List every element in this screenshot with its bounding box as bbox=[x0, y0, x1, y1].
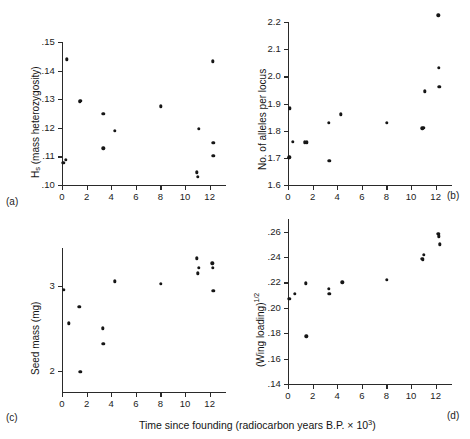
panel-b-x-tick bbox=[337, 186, 338, 190]
panel-d-x-tick bbox=[337, 385, 338, 389]
panel-a-y-tick bbox=[58, 128, 62, 129]
panel-a-y-tick-label: .10 bbox=[41, 180, 55, 190]
data-point bbox=[288, 107, 291, 110]
data-point bbox=[288, 297, 291, 300]
data-point bbox=[113, 129, 116, 132]
panel-d-y-tick bbox=[284, 257, 288, 258]
panel-c-y-axis bbox=[62, 248, 63, 392]
panel-b-x-tick-label: 8 bbox=[384, 192, 389, 202]
panel-a-y-tick-label: .15 bbox=[41, 37, 55, 47]
panel-a-y-tick bbox=[58, 156, 62, 157]
panel-b-x-tick-label: 0 bbox=[285, 192, 290, 202]
panel-b-y-tick-label: 1.6 bbox=[267, 180, 281, 190]
panel-d-x-tick bbox=[288, 385, 289, 389]
data-point bbox=[159, 105, 162, 108]
data-point bbox=[159, 282, 162, 285]
panel-b-y-tick bbox=[284, 104, 288, 105]
data-point bbox=[437, 66, 440, 69]
panel-d-y-tick bbox=[284, 333, 288, 334]
data-point bbox=[293, 292, 296, 295]
panel-a-y-axis-label: Hs (mass heterozygosity) bbox=[30, 66, 42, 178]
panel-a-x-tick-label: 2 bbox=[84, 192, 89, 202]
panel-b-y-tick bbox=[284, 22, 288, 23]
panel-b-x-tick bbox=[386, 186, 387, 190]
panel-a-tag: (a) bbox=[6, 196, 18, 207]
panel-b-tag: (b) bbox=[447, 190, 459, 201]
data-point bbox=[328, 292, 331, 295]
data-point bbox=[62, 288, 65, 291]
panel-a-x-tick-label: 6 bbox=[133, 192, 138, 202]
panel-b-y-axis bbox=[288, 22, 289, 185]
data-point bbox=[305, 141, 308, 144]
data-point bbox=[437, 234, 440, 237]
panel-d-y-tick-label: .14 bbox=[267, 379, 281, 389]
panel-a-x-tick-label: 12 bbox=[204, 192, 215, 202]
panel-b-y-tick-label: 1.9 bbox=[267, 99, 281, 109]
data-point bbox=[327, 121, 330, 124]
panel-a-y-tick bbox=[58, 42, 62, 43]
panel-a-x-tick-label: 4 bbox=[109, 192, 114, 202]
panel-d-x-tick-label: 0 bbox=[285, 391, 290, 401]
panel-d-tag: (d) bbox=[447, 410, 459, 421]
panel-a-x-tick bbox=[136, 186, 137, 190]
panel-d-y-tick-label: .26 bbox=[267, 227, 281, 237]
panel-d-x-tick bbox=[386, 385, 387, 389]
data-point bbox=[422, 126, 425, 129]
panel-a-x-tick-label: 0 bbox=[59, 192, 64, 202]
panel-b-x-tick-label: 6 bbox=[359, 192, 364, 202]
panel-d-x-tick-label: 2 bbox=[310, 391, 315, 401]
panel-c-x-tick bbox=[185, 393, 186, 397]
panel-c-x-tick-label: 10 bbox=[180, 399, 191, 409]
panel-a-y-tick-label: .11 bbox=[42, 152, 55, 162]
panel-c-x-tick bbox=[111, 393, 112, 397]
data-point bbox=[65, 57, 68, 60]
panel-d-y-tick-label: .22 bbox=[267, 278, 281, 288]
panel-a-y-tick-label: .14 bbox=[41, 66, 55, 76]
panel-c-plot-area: 23024681012 bbox=[62, 248, 222, 392]
data-point bbox=[421, 258, 424, 261]
panel-d-plot-area: .14.16.18.20.22.24.26024681012 bbox=[288, 219, 448, 384]
panel-c-x-tick bbox=[160, 393, 161, 397]
data-point bbox=[197, 266, 200, 269]
data-point bbox=[196, 175, 199, 178]
panel-d-y-tick-label: .24 bbox=[267, 252, 281, 262]
panel-b-y-tick bbox=[284, 49, 288, 50]
panel-b-y-tick bbox=[284, 76, 288, 77]
panel-d-x-tick-label: 12 bbox=[430, 391, 441, 401]
data-point bbox=[210, 262, 213, 265]
data-point bbox=[423, 90, 426, 93]
panel-c-x-tick bbox=[210, 393, 211, 397]
data-point bbox=[195, 170, 198, 173]
x-axis-label: Time since founding (radiocarbon years B… bbox=[139, 418, 376, 431]
panel-d-x-tick bbox=[411, 385, 412, 389]
panel-b-y-tick bbox=[284, 131, 288, 132]
panel-b-x-tick-label: 12 bbox=[430, 192, 441, 202]
panel-a-x-tick bbox=[87, 186, 88, 190]
panel-a: Hs (mass heterozygosity) .10.11.12.13.14… bbox=[0, 0, 235, 215]
panel-c-x-tick-label: 4 bbox=[109, 399, 114, 409]
panel-b-y-tick-label: 1.8 bbox=[267, 126, 281, 136]
data-point bbox=[197, 127, 200, 130]
data-point bbox=[195, 256, 198, 259]
data-point bbox=[288, 156, 291, 159]
data-point bbox=[340, 281, 343, 284]
data-point bbox=[422, 253, 425, 256]
data-point bbox=[212, 154, 215, 157]
data-point bbox=[113, 280, 116, 283]
data-point bbox=[328, 159, 331, 162]
panel-d-x-tick bbox=[436, 385, 437, 389]
data-point bbox=[79, 370, 82, 373]
panel-b-x-tick bbox=[411, 186, 412, 190]
data-point bbox=[67, 322, 70, 325]
data-point bbox=[438, 243, 441, 246]
panel-b-x-tick-label: 4 bbox=[335, 192, 340, 202]
data-point bbox=[212, 289, 215, 292]
data-point bbox=[211, 266, 214, 269]
data-point bbox=[339, 113, 342, 116]
panel-a-x-tick bbox=[62, 186, 63, 190]
panel-b-y-tick-label: 1.7 bbox=[267, 153, 281, 163]
data-point bbox=[211, 60, 214, 63]
panel-d-x-tick-label: 10 bbox=[406, 391, 417, 401]
data-point bbox=[385, 278, 388, 281]
panel-a-y-tick-label: .13 bbox=[41, 94, 55, 104]
